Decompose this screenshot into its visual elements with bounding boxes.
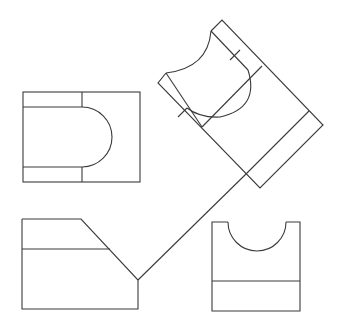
top-view (23, 92, 140, 182)
side-view (212, 222, 300, 311)
drawing-canvas (0, 0, 340, 332)
auxiliary-view (158, 20, 323, 188)
front-view (22, 219, 138, 309)
projection-line (138, 174, 246, 280)
